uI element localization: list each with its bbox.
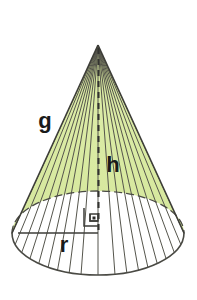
right-angle-dot xyxy=(93,217,96,220)
label-slant-height: g xyxy=(38,108,51,133)
label-height: h xyxy=(106,152,119,177)
cone-diagram-canvas: g h r xyxy=(0,0,197,300)
label-radius: r xyxy=(60,232,69,257)
cone-figure: g h r xyxy=(0,0,197,300)
